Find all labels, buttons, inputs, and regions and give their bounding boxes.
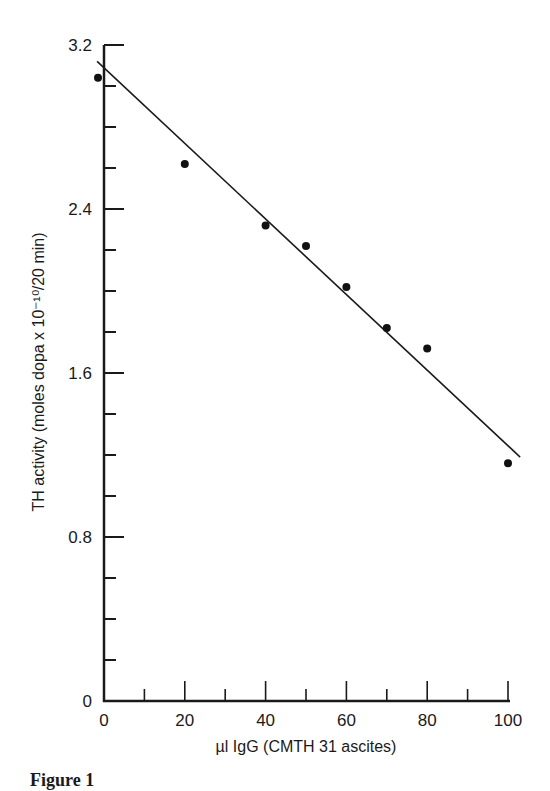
regression-line	[97, 61, 520, 457]
data-points	[94, 74, 512, 467]
x-tick-label: 100	[494, 711, 522, 730]
x-axis-title: µl IgG (CMTH 31 ascites)	[216, 738, 397, 755]
y-tick-label: 1.6	[68, 364, 92, 383]
axis-ticks: 00.81.62.43.2020406080100	[68, 36, 522, 730]
y-tick-label: 3.2	[68, 36, 92, 55]
data-point	[383, 324, 391, 332]
x-tick-label: 80	[418, 711, 437, 730]
y-axis-title: TH activity (moles dopa x 10⁻¹⁰/20 min)	[30, 233, 47, 512]
x-tick-label: 60	[337, 711, 356, 730]
data-point	[94, 74, 102, 82]
figure-caption: Figure 1	[30, 770, 94, 791]
data-point	[181, 160, 189, 168]
x-tick-label: 0	[99, 711, 108, 730]
data-point	[262, 221, 270, 229]
data-point	[504, 459, 512, 467]
fit-line	[97, 61, 520, 457]
data-point	[302, 242, 310, 250]
axes	[103, 45, 510, 702]
data-point	[423, 344, 431, 352]
y-tick-label: 0	[83, 692, 92, 711]
x-tick-label: 20	[175, 711, 194, 730]
data-point	[342, 283, 350, 291]
y-tick-label: 0.8	[68, 528, 92, 547]
x-tick-label: 40	[256, 711, 275, 730]
y-tick-label: 2.4	[68, 200, 92, 219]
